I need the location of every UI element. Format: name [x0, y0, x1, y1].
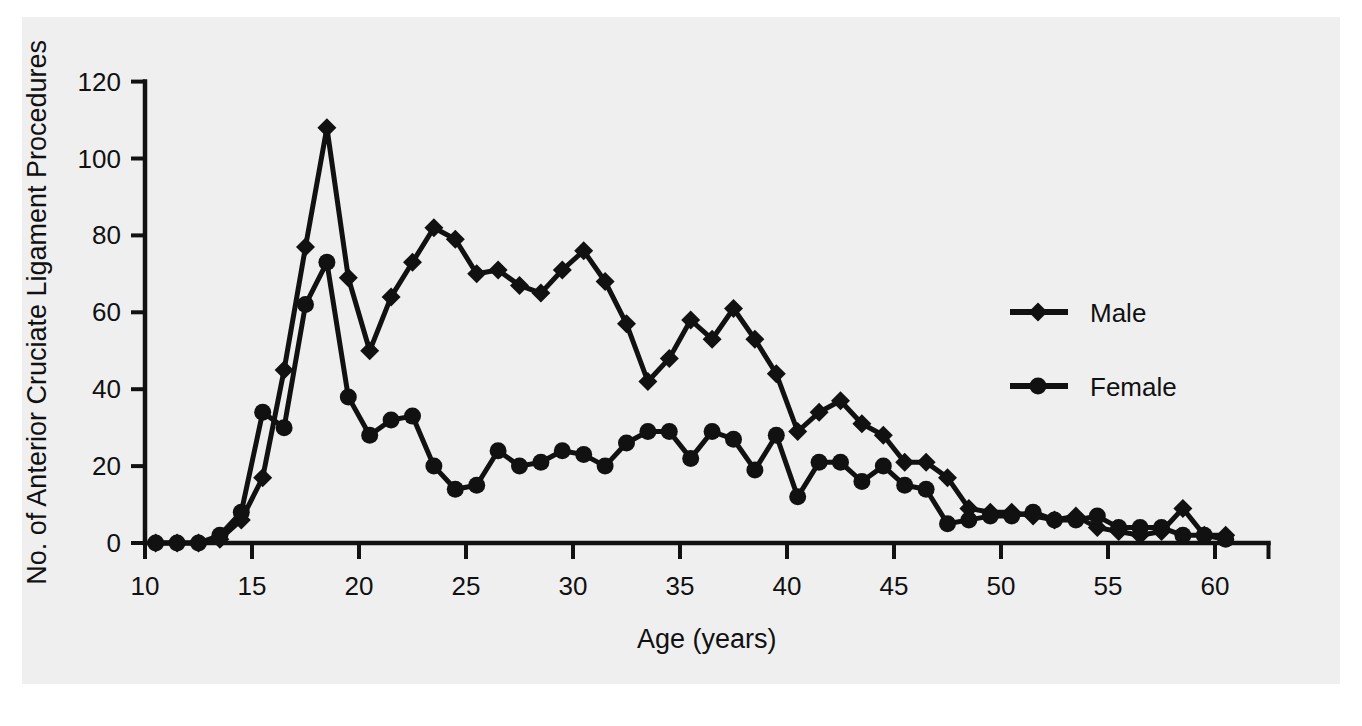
y-axis-tick-label: 100	[78, 144, 121, 174]
data-point-circle-marker	[918, 481, 935, 498]
data-point-circle-marker	[704, 423, 721, 440]
data-point-circle-marker	[811, 454, 828, 471]
data-point-diamond-marker	[296, 237, 315, 256]
data-point-circle-marker	[1025, 504, 1042, 521]
data-point-circle-marker	[1003, 508, 1020, 525]
data-point-circle-marker	[1089, 508, 1106, 525]
x-axis-tick-label: 40	[773, 571, 802, 601]
x-axis-tick-label: 35	[666, 571, 695, 601]
x-axis-title: Age (years)	[637, 624, 777, 654]
data-point-circle-marker	[511, 458, 528, 475]
data-point-circle-marker	[490, 442, 507, 459]
data-point-circle-marker	[1030, 378, 1047, 395]
legend-label-male: Male	[1090, 298, 1146, 328]
legend-label-female: Female	[1090, 372, 1177, 402]
data-point-diamond-marker	[617, 314, 636, 333]
x-axis-tick-label: 50	[987, 571, 1016, 601]
data-point-circle-marker	[832, 454, 849, 471]
data-point-circle-marker	[939, 515, 956, 532]
data-point-circle-marker	[361, 427, 378, 444]
legend-entry-male[interactable]: Male	[1010, 298, 1146, 328]
data-point-diamond-marker	[339, 268, 358, 287]
series-line-male	[156, 128, 1226, 543]
data-point-circle-marker	[340, 388, 357, 405]
data-point-circle-marker	[725, 431, 742, 448]
y-axis-tick-label: 80	[92, 220, 121, 250]
data-point-circle-marker	[853, 473, 870, 490]
data-point-circle-marker	[661, 423, 678, 440]
data-point-circle-marker	[1067, 511, 1084, 528]
data-point-circle-marker	[1046, 511, 1063, 528]
data-point-circle-marker	[896, 477, 913, 494]
x-axis-tick-label: 60	[1201, 571, 1230, 601]
data-point-diamond-marker	[253, 468, 272, 487]
y-axis-title: No. of Anterior Cruciate Ligament Proced…	[22, 40, 52, 585]
data-point-circle-marker	[276, 419, 293, 436]
y-axis-tick-label: 20	[92, 451, 121, 481]
y-axis-tick-label: 120	[78, 67, 121, 97]
data-point-circle-marker	[875, 458, 892, 475]
data-point-circle-marker	[1132, 519, 1149, 536]
chart-plot-area: 0204060801001201015202530354045505560 Ma…	[0, 0, 1362, 726]
x-axis-tick-label: 25	[452, 571, 481, 601]
data-point-circle-marker	[960, 511, 977, 528]
data-point-circle-marker	[682, 450, 699, 467]
data-point-circle-marker	[1196, 527, 1213, 544]
data-point-circle-marker	[404, 408, 421, 425]
x-axis-tick-label: 10	[131, 571, 160, 601]
data-point-circle-marker	[318, 254, 335, 271]
data-point-circle-marker	[1153, 519, 1170, 536]
data-point-circle-marker	[297, 296, 314, 313]
data-point-circle-marker	[447, 481, 464, 498]
data-point-circle-marker	[1174, 527, 1191, 544]
data-point-circle-marker	[254, 404, 271, 421]
data-point-circle-marker	[1110, 519, 1127, 536]
data-point-circle-marker	[147, 535, 164, 552]
data-point-circle-marker	[190, 535, 207, 552]
y-axis-tick-label: 0	[107, 528, 121, 558]
data-point-circle-marker	[169, 535, 186, 552]
data-point-circle-marker	[233, 504, 250, 521]
data-point-circle-marker	[383, 411, 400, 428]
y-axis-tick-label: 40	[92, 374, 121, 404]
data-point-circle-marker	[1217, 531, 1234, 548]
x-axis-tick-label: 15	[238, 571, 267, 601]
x-axis-tick-label: 30	[559, 571, 588, 601]
data-point-circle-marker	[468, 477, 485, 494]
series-female	[147, 254, 1234, 552]
data-point-circle-marker	[532, 454, 549, 471]
data-point-circle-marker	[982, 508, 999, 525]
figure-container: 0204060801001201015202530354045505560 Ma…	[0, 0, 1362, 726]
x-axis-tick-label: 20	[345, 571, 374, 601]
data-point-circle-marker	[768, 427, 785, 444]
data-point-circle-marker	[597, 458, 614, 475]
series-line-female	[156, 262, 1226, 543]
data-point-circle-marker	[554, 442, 571, 459]
data-point-circle-marker	[789, 488, 806, 505]
data-point-diamond-marker	[1029, 303, 1048, 322]
chart-legend: MaleFemale	[1010, 298, 1177, 402]
data-point-circle-marker	[575, 446, 592, 463]
data-point-circle-marker	[639, 423, 656, 440]
data-point-circle-marker	[211, 527, 228, 544]
data-point-circle-marker	[746, 461, 763, 478]
axis-labels-group: Age (years)No. of Anterior Cruciate Liga…	[22, 40, 777, 654]
y-axis-tick-label: 60	[92, 297, 121, 327]
data-point-circle-marker	[425, 458, 442, 475]
legend-entry-female[interactable]: Female	[1010, 372, 1177, 402]
line-chart-svg: 0204060801001201015202530354045505560 Ma…	[0, 0, 1362, 726]
x-axis-tick-label: 45	[880, 571, 909, 601]
series-male	[146, 118, 1235, 552]
data-series-group	[146, 118, 1235, 552]
data-point-circle-marker	[618, 435, 635, 452]
x-axis-tick-label: 55	[1094, 571, 1123, 601]
data-point-diamond-marker	[317, 118, 336, 137]
data-point-diamond-marker	[360, 341, 379, 360]
